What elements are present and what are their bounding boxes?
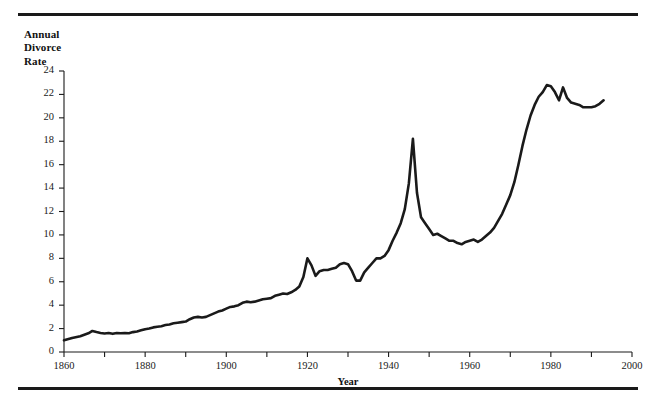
- x-tick-label: 1900: [204, 360, 248, 371]
- y-tick-label: 6: [28, 275, 54, 286]
- y-tick-label: 18: [28, 134, 54, 145]
- axis-ticks: [59, 71, 632, 357]
- y-tick-label: 20: [28, 111, 54, 122]
- y-tick-label: 8: [28, 251, 54, 262]
- x-tick-label: 2000: [610, 360, 650, 371]
- x-tick-label: 1880: [123, 360, 167, 371]
- divorce-rate-line: [64, 85, 604, 340]
- x-tick-label: 1960: [448, 360, 492, 371]
- x-tick-label: 1920: [285, 360, 329, 371]
- x-tick-label: 1980: [529, 360, 573, 371]
- y-tick-label: 14: [28, 181, 54, 192]
- y-tick-label: 12: [28, 205, 54, 216]
- y-tick-label: 16: [28, 158, 54, 169]
- x-axis-title: Year: [318, 376, 378, 387]
- y-tick-label: 22: [28, 87, 54, 98]
- divorce-rate-figure: Annual Divorce Rate 02468101214161820222…: [0, 0, 650, 404]
- x-tick-label: 1940: [367, 360, 411, 371]
- y-tick-label: 24: [28, 64, 54, 75]
- y-tick-label: 2: [28, 322, 54, 333]
- y-tick-label: 10: [28, 228, 54, 239]
- axis-lines: [64, 71, 632, 352]
- y-tick-label: 0: [28, 345, 54, 356]
- x-tick-label: 1860: [42, 360, 86, 371]
- y-tick-label: 4: [28, 298, 54, 309]
- chart-plot-area: [0, 0, 650, 404]
